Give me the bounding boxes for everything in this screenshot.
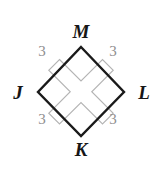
vertex-label-k: K xyxy=(64,140,98,159)
side-length-label-jk: 3 xyxy=(34,112,50,127)
vertex-label-m: M xyxy=(64,22,98,41)
side-length-label-ml: 3 xyxy=(105,44,121,59)
side-length-label-jm: 3 xyxy=(34,44,50,59)
geometry-figure: M L K J 3 3 3 3 xyxy=(0,0,161,169)
side-length-label-kl: 3 xyxy=(105,112,121,127)
vertex-label-j: J xyxy=(5,83,31,102)
vertex-label-l: L xyxy=(131,83,157,102)
